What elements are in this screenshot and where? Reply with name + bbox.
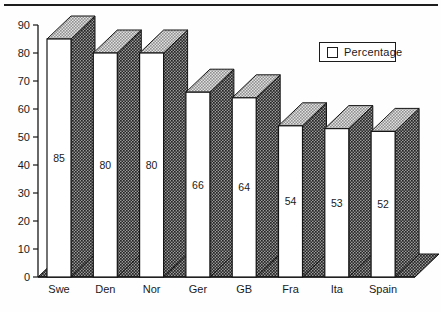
y-tick-label: 60 xyxy=(18,103,30,115)
bar-value-label: 80 xyxy=(146,159,158,171)
bar-side-face xyxy=(395,108,419,277)
y-tick-label: 30 xyxy=(18,187,30,199)
bar-value-label: 85 xyxy=(53,152,65,164)
category-label: Den xyxy=(95,283,115,295)
bar-side-face xyxy=(117,30,141,277)
bar-value-label: 80 xyxy=(99,159,111,171)
category-label: GB xyxy=(236,283,252,295)
y-tick-label: 70 xyxy=(18,75,30,87)
bar-value-label: 52 xyxy=(377,198,389,210)
bar-value-label: 64 xyxy=(238,181,250,193)
category-label: Fra xyxy=(282,283,299,295)
bar-value-label: 54 xyxy=(285,195,297,207)
chart-figure: 010203040506070809085Swe80Den80Nor66Ger6… xyxy=(0,0,441,312)
bar-side-face xyxy=(164,30,188,277)
y-tick-label: 50 xyxy=(18,131,30,143)
legend: Percentage xyxy=(319,42,396,62)
bar-side-face xyxy=(256,75,280,277)
bar-value-label: 66 xyxy=(192,179,204,191)
y-tick-label: 20 xyxy=(18,215,30,227)
bar-side-face xyxy=(349,106,373,277)
legend-swatch-icon xyxy=(327,47,338,58)
bar-side-face xyxy=(210,69,234,277)
y-tick-label: 40 xyxy=(18,159,30,171)
legend-label: Percentage xyxy=(344,46,402,58)
category-label: Swe xyxy=(48,283,69,295)
category-label: Ita xyxy=(331,283,344,295)
category-label: Nor xyxy=(143,283,161,295)
y-tick-label: 80 xyxy=(18,47,30,59)
y-tick-label: 0 xyxy=(24,271,30,283)
y-tick-label: 90 xyxy=(18,19,30,31)
bar-side-face xyxy=(71,16,95,277)
bar-side-face xyxy=(303,103,327,277)
category-label: Spain xyxy=(369,283,397,295)
y-tick-label: 10 xyxy=(18,243,30,255)
bar-value-label: 53 xyxy=(331,197,343,209)
category-label: Ger xyxy=(189,283,208,295)
